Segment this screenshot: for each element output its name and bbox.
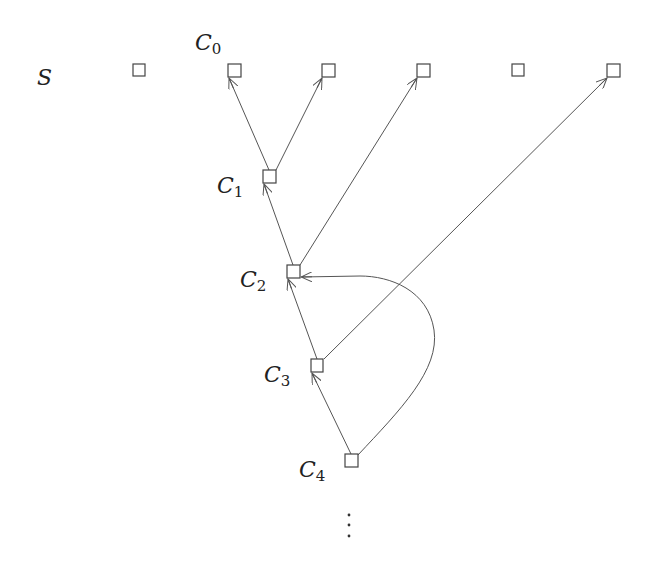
edge-c4-c3 — [312, 373, 351, 454]
edge-c2-c1 — [264, 184, 293, 265]
diagram-canvas: S C0 C1 C2 C3 C4 — [0, 0, 653, 570]
edges — [229, 78, 607, 455]
edge-c3-c2 — [288, 279, 317, 359]
label-c0: C0 — [195, 30, 221, 58]
node-s2 — [322, 64, 335, 77]
label-c2: C2 — [240, 267, 266, 295]
node-c4 — [345, 454, 358, 467]
edge-c3-s5 — [324, 78, 607, 359]
edge-c2-s3 — [300, 78, 417, 265]
label-c3: C3 — [264, 362, 290, 390]
node-s4 — [512, 64, 524, 76]
edge-c1-c0 — [229, 78, 269, 170]
node-s0 — [133, 64, 145, 76]
node-c2 — [287, 265, 300, 278]
node-c0 — [228, 64, 241, 77]
node-s5 — [607, 64, 620, 77]
label-c4: C4 — [299, 457, 325, 485]
label-s: S — [37, 65, 52, 90]
node-c3 — [311, 359, 323, 372]
node-c1 — [263, 170, 276, 183]
edge-c1-s2 — [276, 78, 322, 170]
node-s3 — [417, 64, 430, 77]
graph-svg: S C0 C1 C2 C3 C4 — [0, 0, 653, 570]
chain-nodes — [263, 170, 358, 467]
label-c1: C1 — [217, 173, 243, 201]
vertical-ellipsis-icon — [348, 514, 351, 538]
s-row-nodes — [133, 64, 620, 77]
